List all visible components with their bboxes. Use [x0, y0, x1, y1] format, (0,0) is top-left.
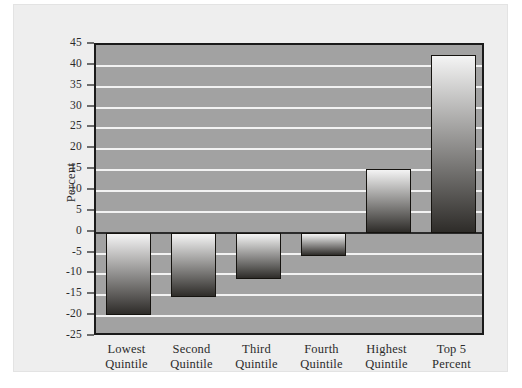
- bar: [171, 233, 217, 298]
- gridline: [96, 169, 482, 171]
- y-tick-label: 35: [48, 79, 82, 90]
- gridline: [96, 253, 482, 255]
- y-tick-label: 10: [48, 183, 82, 194]
- gridline: [96, 86, 482, 88]
- y-tick-mark: [87, 209, 94, 211]
- y-tick-label: -5: [48, 246, 82, 257]
- y-tick-label: -15: [48, 287, 82, 298]
- plot-area: [94, 43, 484, 335]
- gridline: [96, 211, 482, 213]
- y-tick-mark: [87, 313, 94, 315]
- y-tick-label: 45: [48, 37, 82, 48]
- y-tick-label: 15: [48, 162, 82, 173]
- y-tick-mark: [87, 125, 94, 127]
- x-tick-label: FourthQuintile: [289, 342, 354, 372]
- y-tick-mark: [87, 188, 94, 190]
- gridline: [96, 107, 482, 109]
- x-tick-label: ThirdQuintile: [224, 342, 289, 372]
- y-tick-label: 20: [48, 141, 82, 152]
- y-tick-mark: [87, 251, 94, 253]
- y-tick-mark: [87, 42, 94, 44]
- gridline: [96, 127, 482, 129]
- y-tick-mark: [87, 63, 94, 65]
- bar: [301, 233, 347, 256]
- y-tick-mark: [87, 292, 94, 294]
- gridline: [96, 148, 482, 150]
- y-tick-label: -25: [48, 329, 82, 340]
- y-tick-mark: [87, 334, 94, 336]
- gridline: [96, 273, 482, 275]
- x-tick-label: SecondQuintile: [159, 342, 224, 372]
- x-tick-label: Top 5Percent: [419, 342, 484, 372]
- y-tick-label: 25: [48, 120, 82, 131]
- zero-line: [96, 232, 482, 234]
- y-tick-label: 0: [48, 225, 82, 236]
- bar: [236, 233, 282, 279]
- chart-page: Percent 454035302520151050-5-10-15-20-25…: [0, 0, 522, 388]
- y-tick-mark: [87, 167, 94, 169]
- y-tick-mark: [87, 84, 94, 86]
- y-tick-mark: [87, 146, 94, 148]
- y-tick-label: 5: [48, 204, 82, 215]
- gridline: [96, 294, 482, 296]
- y-tick-mark: [87, 230, 94, 232]
- bar: [106, 233, 152, 315]
- gridline: [96, 65, 482, 67]
- y-tick-mark: [87, 105, 94, 107]
- bar: [366, 169, 412, 233]
- y-tick-mark: [87, 271, 94, 273]
- y-tick-label: 30: [48, 100, 82, 111]
- bar: [431, 55, 477, 233]
- y-tick-label: -20: [48, 308, 82, 319]
- gridline: [96, 190, 482, 192]
- figure-frame: Percent 454035302520151050-5-10-15-20-25…: [13, 4, 508, 372]
- gridline: [96, 315, 482, 317]
- x-tick-label: HighestQuintile: [354, 342, 419, 372]
- y-tick-label: -10: [48, 266, 82, 277]
- x-tick-label: LowestQuintile: [94, 342, 159, 372]
- y-tick-label: 40: [48, 58, 82, 69]
